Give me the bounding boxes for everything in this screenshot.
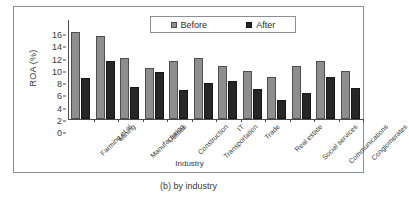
y-tick-mark bbox=[63, 120, 66, 121]
y-tick-label: 6 bbox=[57, 92, 62, 101]
y-tick-mark bbox=[63, 96, 66, 97]
x-axis-category-label: Mining bbox=[117, 123, 137, 143]
bar-before bbox=[316, 61, 325, 119]
y-tick-mark bbox=[63, 47, 66, 48]
bar-group bbox=[192, 21, 217, 119]
bar-group bbox=[216, 21, 241, 119]
bar-before bbox=[145, 68, 154, 119]
y-tick-label: 8 bbox=[57, 80, 62, 89]
legend-entry-after: After bbox=[246, 20, 275, 30]
y-tick-mark bbox=[63, 71, 66, 72]
chart-frame: ROA (%) 0246810121416 Before After Indus… bbox=[13, 6, 364, 173]
bar-group bbox=[339, 21, 364, 119]
bar-before bbox=[71, 32, 80, 119]
x-tick-mark bbox=[265, 119, 266, 122]
y-tick-label: 0 bbox=[57, 129, 62, 138]
bar-before bbox=[194, 58, 203, 119]
y-tick-label: 2 bbox=[57, 116, 62, 125]
bar-group bbox=[143, 21, 168, 119]
bar-after bbox=[253, 89, 262, 119]
y-tick-mark bbox=[63, 59, 66, 60]
bar-after bbox=[155, 72, 164, 119]
y-tick-label: 10 bbox=[52, 67, 62, 76]
bar-before bbox=[267, 77, 276, 119]
x-tick-mark bbox=[94, 119, 95, 122]
x-axis-category-label: Trade bbox=[263, 123, 281, 141]
x-tick-mark bbox=[363, 119, 364, 122]
y-tick-label: 14 bbox=[52, 43, 62, 52]
bar-before bbox=[292, 66, 301, 119]
legend-label-after: After bbox=[256, 20, 275, 30]
x-tick-mark bbox=[167, 119, 168, 122]
x-axis-category-label: Utilities bbox=[167, 123, 189, 145]
y-tick-label: 16 bbox=[52, 31, 62, 40]
bar-group bbox=[314, 21, 339, 119]
bar-group bbox=[118, 21, 143, 119]
x-tick-mark bbox=[290, 119, 291, 122]
bar-after bbox=[179, 90, 188, 119]
bar-before bbox=[120, 58, 129, 119]
bar-before bbox=[218, 66, 227, 119]
x-tick-mark bbox=[216, 119, 217, 122]
bar-group bbox=[265, 21, 290, 119]
bar-group bbox=[94, 21, 119, 119]
y-axis-title: ROA (%) bbox=[28, 33, 38, 103]
legend-swatch-after-icon bbox=[246, 22, 252, 28]
y-tick-label: 4 bbox=[57, 104, 62, 113]
plot-area bbox=[69, 21, 363, 119]
legend-swatch-before-icon bbox=[171, 22, 177, 28]
bar-before bbox=[243, 71, 252, 119]
bar-after bbox=[326, 77, 335, 119]
x-tick-mark bbox=[143, 119, 144, 122]
x-tick-mark bbox=[118, 119, 119, 122]
bar-after bbox=[106, 61, 115, 119]
bar-after bbox=[277, 100, 286, 119]
bar-group bbox=[167, 21, 192, 119]
y-tick-mark bbox=[63, 108, 66, 109]
bar-before bbox=[341, 71, 350, 119]
bar-after bbox=[351, 88, 360, 119]
chart-legend: Before After bbox=[150, 16, 296, 33]
figure-caption: (b) by industry bbox=[0, 181, 377, 191]
bar-after bbox=[228, 81, 237, 119]
y-axis-tick-labels: 0246810121416 bbox=[42, 21, 66, 119]
x-tick-mark bbox=[314, 119, 315, 122]
y-tick-mark bbox=[63, 35, 66, 36]
x-axis-category-label: Real estate bbox=[293, 123, 324, 154]
bar-group bbox=[69, 21, 94, 119]
bar-after bbox=[302, 93, 311, 119]
x-tick-mark bbox=[192, 119, 193, 122]
y-tick-label: 12 bbox=[52, 55, 62, 64]
bar-after bbox=[204, 83, 213, 119]
bar-group bbox=[241, 21, 266, 119]
bar-after bbox=[130, 87, 139, 119]
y-tick-mark bbox=[63, 133, 66, 134]
x-axis-title: Industry bbox=[14, 159, 365, 168]
legend-label-before: Before bbox=[181, 20, 208, 30]
bar-before bbox=[96, 36, 105, 119]
bar-after bbox=[81, 78, 90, 119]
x-tick-mark bbox=[241, 119, 242, 122]
y-tick-mark bbox=[63, 84, 66, 85]
x-tick-mark bbox=[339, 119, 340, 122]
bar-group bbox=[290, 21, 315, 119]
legend-entry-before: Before bbox=[171, 20, 208, 30]
bar-before bbox=[169, 61, 178, 119]
